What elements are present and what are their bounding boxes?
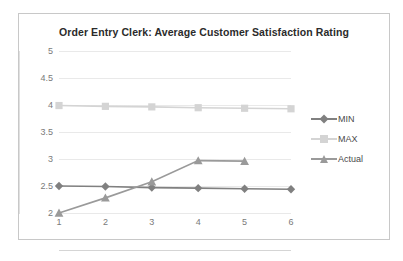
y-axis-tick-label: 3.5 [23,127,53,137]
x-axis-tick-label: 1 [49,217,69,227]
y-axis-tick-label: 3 [23,154,53,164]
data-point-min [287,185,295,193]
x-axis-line [59,250,291,251]
data-point-min [101,182,109,190]
chart-frame: Order Entry Clerk: Average Customer Sati… [18,13,390,240]
x-axis-tick-label: 4 [188,217,208,227]
gridline [59,213,291,214]
legend-triangle-marker-icon [320,155,328,163]
chart-legend: MINMAXActual [311,109,391,169]
data-point-max [241,105,248,112]
series-line-max [59,106,291,109]
legend-swatch-min [311,113,337,125]
y-axis-tick-label: 4 [23,100,53,110]
legend-label: MIN [338,114,355,124]
series-layer [59,51,291,213]
y-axis-tick-label: 4.5 [23,73,53,83]
legend-diamond-marker-icon [319,114,328,123]
data-point-max [195,104,202,111]
legend-swatch-actual [311,153,337,165]
data-point-max [102,103,109,110]
data-point-actual [147,177,156,185]
data-point-min [240,185,248,193]
data-point-min [55,182,63,190]
data-point-max [287,105,294,112]
legend-square-marker-icon [320,135,328,143]
y-axis-tick-label: 5 [23,46,53,56]
legend-label: MAX [338,134,358,144]
data-point-max [55,102,62,109]
series-line-min [59,186,291,189]
x-axis-tick-label: 5 [235,217,255,227]
plot-area [59,51,291,213]
x-axis-tick-label: 2 [95,217,115,227]
legend-item-max[interactable]: MAX [311,129,391,149]
legend-item-actual[interactable]: Actual [311,149,391,169]
y-axis-tick-label: 2.5 [23,181,53,191]
x-axis-tick-label: 6 [281,217,301,227]
legend-swatch-max [311,133,337,145]
data-point-max [148,103,155,110]
x-axis-tick-label: 3 [142,217,162,227]
y-axis-line [19,51,20,214]
legend-label: Actual [338,154,363,164]
legend-item-min[interactable]: MIN [311,109,391,129]
chart-title: Order Entry Clerk: Average Customer Sati… [19,26,389,38]
data-point-min [194,184,202,192]
